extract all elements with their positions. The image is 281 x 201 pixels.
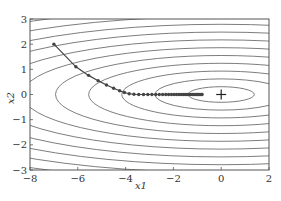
y-tick-label-5: 2 bbox=[21, 39, 27, 50]
trajectory-point-2 bbox=[87, 74, 90, 77]
trajectory-point-3 bbox=[96, 79, 99, 82]
trajectory-point-11 bbox=[142, 93, 145, 96]
trajectory-point-12 bbox=[146, 93, 149, 96]
trajectory-point-1 bbox=[74, 65, 77, 68]
y-tick-label-4: 1 bbox=[21, 64, 27, 75]
y-tick-label-6: 3 bbox=[21, 14, 27, 25]
trajectory-point-8 bbox=[127, 92, 130, 95]
trajectory-point-37 bbox=[200, 93, 203, 96]
x-tick-label-1: −6 bbox=[70, 173, 85, 184]
trajectory-point-7 bbox=[123, 91, 126, 94]
x-tick-label-4: 0 bbox=[218, 173, 224, 184]
trajectory-point-6 bbox=[118, 89, 121, 92]
x-axis-label: x1 bbox=[135, 180, 147, 191]
trajectory-point-15 bbox=[158, 93, 161, 96]
y-tick-label-2: −1 bbox=[12, 114, 27, 125]
y-tick-label-0: −3 bbox=[12, 165, 27, 176]
trajectory-point-16 bbox=[161, 93, 164, 96]
trajectory-point-14 bbox=[154, 93, 157, 96]
trajectory-point-4 bbox=[105, 83, 108, 86]
contour-chart: −8−6−4−202 −3−2−10123 x1 x2 bbox=[0, 0, 281, 201]
x-tick-label-5: 2 bbox=[266, 173, 272, 184]
trajectory-point-5 bbox=[112, 87, 115, 90]
x-tick-label-2: −4 bbox=[118, 173, 133, 184]
x-tick-label-3: −2 bbox=[166, 173, 181, 184]
y-tick-label-3: 0 bbox=[21, 89, 27, 100]
trajectory-point-9 bbox=[132, 93, 135, 96]
trajectory-point-0 bbox=[52, 42, 55, 45]
trajectory-point-13 bbox=[150, 93, 153, 96]
y-tick-label-1: −2 bbox=[12, 139, 27, 150]
y-axis-label: x2 bbox=[5, 92, 16, 104]
trajectory-point-10 bbox=[137, 93, 140, 96]
